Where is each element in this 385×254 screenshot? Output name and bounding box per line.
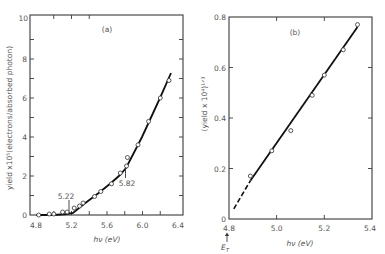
chart-b-threshold-arrowhead-icon [225,233,229,237]
chart-a-annotation-5.82: 5.82 [119,179,136,188]
chart-a-fit-curve [36,73,171,215]
chart-b-ytick-0: 0 [221,215,226,224]
chart-b-extrapolation-line [234,181,251,209]
figure: 0 2 4 6 8 10 4.8 5.2 5.6 6.0 6.4 hν (eV)… [0,0,385,254]
chart-a-ytick-0: 0 [22,211,27,220]
chart-a-ytick-2: 2 [22,172,27,181]
chart-a-xtick-4.8: 4.8 [30,221,42,230]
chart-a-ylabel: yield x10⁵(electrons/absorbed photon) [5,46,14,190]
chart-b-x-ticks [277,17,325,219]
chart-a-xlabel: hν (eV) [94,235,121,244]
chart-a-ytick-10: 10 [18,14,28,23]
chart-a-x-ticks [54,15,161,215]
chart-b-data-points [248,23,359,178]
chart-a-xtick-5.2: 5.2 [66,221,78,230]
chart-b-threshold-label: ET [221,243,230,253]
chart-a-ytick-4: 4 [22,133,27,142]
chart-b-ytick-0.6: 0.6 [214,64,226,73]
chart-b-ylabel: (yield x 10⁴)¹ᐟ³ [200,77,209,132]
chart-a-frame [30,15,183,215]
chart-b: 0 0.2 0.4 0.6 0.8 4.8 5.0 5.2 5.4 ET hν … [200,13,376,253]
chart-b-xlabel: hν (eV) [287,239,314,248]
chart-b-ytick-0.2: 0.2 [214,165,226,174]
chart-b-y-ticks [229,68,372,169]
chart-a-ytick-8: 8 [22,55,27,64]
chart-a-xtick-5.6: 5.6 [101,221,113,230]
chart-b-xtick-4.8: 4.8 [223,224,235,233]
chart-b-xtick-5.2: 5.2 [318,224,330,233]
chart-a-annotation-5.22: 5.22 [58,192,75,201]
chart-b-ytick-0.8: 0.8 [214,13,226,22]
chart-a-xtick-6.0: 6.0 [137,221,149,230]
chart-b-frame [229,17,372,219]
chart-a: 0 2 4 6 8 10 4.8 5.2 5.6 6.0 6.4 hν (eV)… [5,14,184,244]
chart-b-xtick-5.4: 5.4 [364,224,376,233]
chart-a-y-ticks [30,40,183,196]
chart-a-ytick-6: 6 [22,94,27,103]
chart-b-panel-label: (b) [290,28,301,37]
chart-a-panel-label: (a) [102,25,113,34]
chart-a-xtick-6.4: 6.4 [172,221,184,230]
chart-b-xtick-5.0: 5.0 [271,224,283,233]
chart-b-ytick-0.4: 0.4 [214,114,226,123]
